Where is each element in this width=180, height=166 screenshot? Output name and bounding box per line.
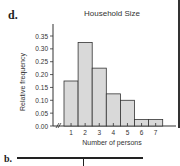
y-tick-label: 0.25 — [35, 58, 48, 65]
histogram-chart: 0.000.050.100.150.200.250.300.35Relative… — [0, 0, 180, 166]
x-tick-label: 7 — [154, 129, 158, 136]
next-panel-label: b. — [4, 153, 12, 164]
y-tick-label: 0.20 — [35, 71, 48, 78]
y-tick-label: 0.10 — [35, 97, 48, 104]
x-tick-label: 6 — [140, 129, 144, 136]
y-axis-label: Relative frequency — [19, 53, 27, 111]
histogram-bar — [120, 100, 134, 126]
x-axis-label: Number of persons — [82, 139, 142, 147]
x-tick-label: 5 — [126, 129, 130, 136]
histogram-bar — [92, 68, 106, 126]
x-tick-label: 4 — [112, 129, 116, 136]
next-panel-axis-line — [17, 157, 143, 159]
y-tick-label: 0.15 — [35, 84, 48, 91]
histogram-bar — [106, 94, 120, 126]
x-tick-label: 3 — [97, 129, 101, 136]
y-tick-label: 0.00 — [35, 123, 48, 130]
histogram-bar — [64, 81, 78, 126]
y-tick-label: 0.05 — [35, 110, 48, 117]
y-tick-label: 0.30 — [35, 45, 48, 52]
next-panel-axis-tick — [83, 157, 84, 166]
histogram-bar — [78, 42, 92, 126]
x-tick-label: 1 — [69, 129, 73, 136]
x-tick-label: 2 — [83, 129, 87, 136]
y-tick-label: 0.35 — [35, 33, 48, 40]
